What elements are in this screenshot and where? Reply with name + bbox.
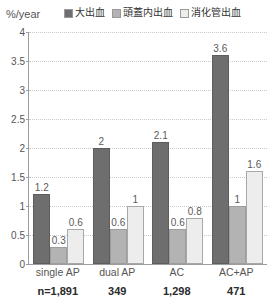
bars: 20.61 — [89, 32, 149, 264]
bar-groups: 1.20.30.620.612.10.60.83.611.6 — [29, 32, 267, 264]
bar-value-label: 0.6 — [69, 217, 83, 228]
bar-value-label: 1.6 — [247, 159, 261, 170]
bar-value-label: 0.8 — [188, 206, 202, 217]
bar-wrapper: 0.3 — [50, 32, 67, 264]
bar-wrapper: 1.6 — [246, 32, 263, 264]
bar — [50, 247, 67, 264]
y-tick-mark — [26, 264, 29, 265]
bar-wrapper: 1 — [127, 32, 144, 264]
bar — [246, 171, 263, 264]
sample-size-row: n=1,8913491,298471 — [28, 285, 266, 297]
bar — [229, 206, 246, 264]
bar-value-label: 1 — [132, 194, 138, 205]
bar-wrapper: 0.6 — [110, 32, 127, 264]
legend-item: 頭蓋内出血 — [112, 8, 173, 18]
bars: 1.20.30.6 — [29, 32, 89, 264]
category-label: dual AP — [88, 266, 148, 278]
legend-label: 消化管出血 — [191, 8, 241, 18]
y-tick-label: 3.5 — [11, 56, 25, 67]
bar-wrapper: 1.2 — [33, 32, 50, 264]
category-label: single AP — [28, 266, 88, 278]
y-axis-unit-label: %/year — [6, 8, 40, 20]
bar-value-label: 0.3 — [52, 235, 66, 246]
bar-wrapper: 0.6 — [67, 32, 84, 264]
bar — [186, 218, 203, 264]
bar — [67, 229, 84, 264]
legend-item: 消化管出血 — [180, 8, 241, 18]
bar-group: 2.10.60.8 — [148, 32, 208, 264]
bars: 3.611.6 — [208, 32, 268, 264]
category-label: AC — [147, 266, 207, 278]
y-tick-label: 0.5 — [11, 230, 25, 241]
bar — [212, 55, 229, 264]
chart-legend: 大出血頭蓋内出血消化管出血 — [64, 8, 241, 18]
bar-value-label: 1.2 — [35, 182, 49, 193]
bar-group: 3.611.6 — [208, 32, 268, 264]
bleeding-rate-bar-chart: %/year 大出血頭蓋内出血消化管出血 00.511.522.533.54 1… — [0, 0, 272, 306]
y-tick-label: 2.5 — [11, 114, 25, 125]
sample-size-label: 1,298 — [147, 285, 207, 297]
y-tick-label: 3 — [19, 85, 25, 96]
bar-value-label: 1 — [234, 194, 240, 205]
plot-area: 00.511.522.533.54 1.20.30.620.612.10.60.… — [28, 32, 267, 265]
bar-value-label: 2 — [98, 136, 104, 147]
sample-size-label: 349 — [88, 285, 148, 297]
bar-value-label: 0.6 — [111, 217, 125, 228]
bar-wrapper: 3.6 — [212, 32, 229, 264]
bar — [110, 229, 127, 264]
legend-label: 頭蓋内出血 — [123, 8, 173, 18]
bar — [33, 194, 50, 264]
legend-item: 大出血 — [64, 8, 105, 18]
bars: 2.10.60.8 — [148, 32, 208, 264]
bar-group: 20.61 — [89, 32, 149, 264]
category-label: AC+AP — [207, 266, 267, 278]
bar — [169, 229, 186, 264]
bar-wrapper: 2.1 — [152, 32, 169, 264]
y-tick-label: 0 — [19, 259, 25, 270]
y-tick-label: 4 — [19, 27, 25, 38]
legend-swatch-intracranial-bleeding — [112, 9, 121, 18]
bar-value-label: 0.6 — [171, 217, 185, 228]
legend-swatch-gastrointestinal-bleeding — [180, 9, 189, 18]
bar-group: 1.20.30.6 — [29, 32, 89, 264]
y-tick-label: 1 — [19, 201, 25, 212]
legend-swatch-major-bleeding — [64, 9, 73, 18]
bar — [93, 148, 110, 264]
legend-label: 大出血 — [75, 8, 105, 18]
bar-value-label: 3.6 — [213, 43, 227, 54]
category-axis-labels: single APdual APACAC+AP — [28, 266, 266, 278]
bar — [127, 206, 144, 264]
bar-wrapper: 0.8 — [186, 32, 203, 264]
bar-value-label: 2.1 — [154, 130, 168, 141]
bar-wrapper: 1 — [229, 32, 246, 264]
bar-wrapper: 2 — [93, 32, 110, 264]
sample-size-label: n=1,891 — [28, 285, 88, 297]
bar — [152, 142, 169, 264]
y-tick-label: 2 — [19, 143, 25, 154]
bar-wrapper: 0.6 — [169, 32, 186, 264]
y-tick-label: 1.5 — [11, 172, 25, 183]
sample-size-label: 471 — [207, 285, 267, 297]
